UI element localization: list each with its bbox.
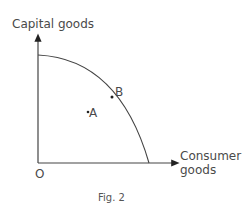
x-axis-label-line1: Consumer	[180, 149, 241, 163]
origin-label: O	[35, 167, 44, 181]
ppf-diagram	[0, 0, 244, 214]
y-axis-label: Capital goods	[12, 17, 94, 31]
x-axis-label-line2: goods	[180, 163, 216, 177]
point-b-dot	[111, 96, 114, 99]
point-a-label: A	[89, 106, 97, 120]
point-b-label: B	[115, 85, 123, 99]
figure-caption: Fig. 2	[98, 192, 125, 203]
